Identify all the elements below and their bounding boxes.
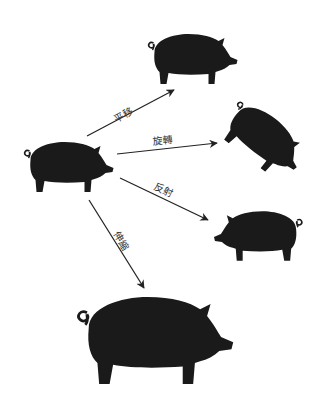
- transformation-diagram: [0, 0, 328, 404]
- rotation-label: 旋轉: [152, 131, 173, 148]
- dilated-pig: [79, 297, 234, 384]
- reflected-pig: [214, 211, 302, 260]
- original-pig: [25, 142, 114, 192]
- translated-pig: [149, 34, 238, 84]
- rotated-pig: [215, 95, 312, 186]
